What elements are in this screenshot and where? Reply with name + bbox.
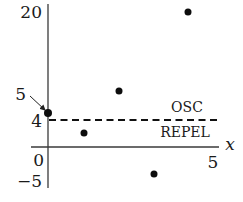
data-point-n1 <box>81 130 88 137</box>
x-axis-label: x <box>225 134 235 154</box>
y-tick-label-minus5: −5 <box>17 171 42 191</box>
data-point-n3 <box>151 171 158 178</box>
y-tick-label-4: 4 <box>31 111 42 131</box>
data-point-n0 <box>44 109 52 117</box>
data-point-n4 <box>185 9 192 16</box>
osc-label: OSC <box>171 99 203 115</box>
annotation-arrow <box>30 96 45 110</box>
scatter-chart: OSC REPEL 20 5 4 0 −5 5 x <box>0 0 243 202</box>
y-tick-label-20: 20 <box>20 2 42 22</box>
y-tick-label-0: 0 <box>33 150 44 170</box>
repel-label: REPEL <box>160 124 210 140</box>
x-tick-label-5: 5 <box>208 152 219 172</box>
data-point-n2 <box>116 88 123 95</box>
annotation-label-5: 5 <box>15 84 26 104</box>
